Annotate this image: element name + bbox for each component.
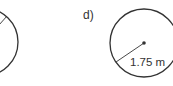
- figure-d: d) 1.75 m: [83, 8, 173, 77]
- partial-radius-line: [0, 16, 7, 42]
- figure-label: d): [83, 8, 94, 22]
- radius-label: 1.75 m: [130, 56, 165, 68]
- partial-circle: [0, 8, 18, 76]
- diagram-canvas: d) 1.75 m: [0, 0, 173, 86]
- partial-circle-figure: [0, 8, 18, 76]
